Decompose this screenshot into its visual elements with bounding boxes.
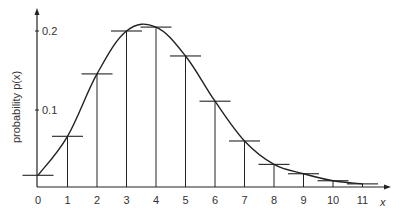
x-tick-label: 7 — [241, 194, 247, 206]
x-tick-label: 3 — [123, 194, 129, 206]
x-tick-label: 9 — [300, 194, 306, 206]
x-tick-label: 8 — [271, 194, 277, 206]
probability-chart: 0.1 0.2 probability p(x) x 0123456789101… — [0, 0, 409, 214]
x-tick-label: 1 — [64, 194, 70, 206]
x-tick-label: 4 — [153, 194, 159, 206]
x-tick-label: 0 — [35, 194, 41, 206]
x-axis-label: x — [379, 196, 386, 208]
x-tick-labels: 01234567891011 — [35, 194, 368, 206]
x-tick-label: 6 — [212, 194, 218, 206]
x-tick-label: 2 — [94, 194, 100, 206]
x-tick-label: 10 — [327, 194, 339, 206]
distribution-curve — [38, 24, 363, 184]
x-tick-label: 11 — [357, 194, 368, 206]
y-tick-label: 0.2 — [42, 25, 57, 37]
y-tick-label: 0.1 — [42, 104, 57, 116]
y-axis-arrow-icon — [35, 8, 40, 15]
x-tick-label: 5 — [182, 194, 188, 206]
stems — [68, 27, 363, 187]
caps — [23, 27, 379, 184]
y-axis-label: probability p(x) — [10, 71, 22, 143]
x-axis-arrow-icon — [384, 185, 391, 190]
